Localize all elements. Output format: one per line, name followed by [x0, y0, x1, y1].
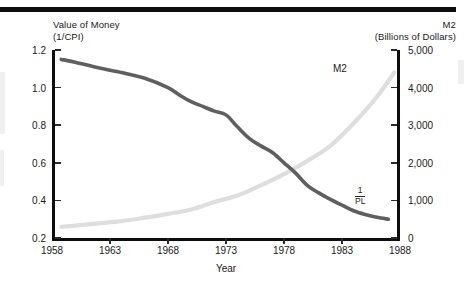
x-axis-tick-label: 1973 — [215, 245, 237, 256]
inverse-pl-series-label: 1 PL — [355, 186, 365, 207]
x-axis-tick — [225, 238, 227, 244]
left-axis-tick — [55, 237, 61, 239]
left-axis-tick-label: 0.6 — [32, 157, 46, 168]
left-axis-title-line1: Value of Money — [53, 19, 120, 30]
left-axis-tick-label: 1.0 — [32, 82, 46, 93]
x-axis-tick — [341, 238, 343, 244]
right-axis-tick — [391, 162, 397, 164]
x-axis-tick-label: 1983 — [331, 245, 353, 256]
left-axis-tick-label: 0.4 — [32, 195, 46, 206]
inverse-pl-denominator: PL — [355, 197, 365, 207]
left-axis-tick — [55, 124, 61, 126]
right-axis-tick — [391, 49, 397, 51]
m2-series-label: M2 — [333, 63, 347, 74]
right-axis-tick — [391, 124, 397, 126]
x-axis-tick-label: 1988 — [389, 245, 411, 256]
x-axis-tick-label: 1963 — [99, 245, 121, 256]
left-axis-tick-label: 0.2 — [32, 233, 46, 244]
x-axis-title: Year — [216, 263, 236, 274]
right-axis-tick — [391, 237, 397, 239]
x-axis-tick-label: 1968 — [157, 245, 179, 256]
x-axis-tick-label: 1958 — [41, 245, 63, 256]
scan-edge-artifact — [0, 72, 5, 134]
x-axis-tick — [109, 238, 111, 244]
right-axis-tick — [391, 200, 397, 202]
scan-edge-artifact — [0, 150, 4, 186]
x-axis-tick-label: 1978 — [273, 245, 295, 256]
right-axis-tick-label: 3,000 — [408, 120, 433, 131]
right-axis-tick — [391, 87, 397, 89]
right-axis-tick-label: 4,000 — [408, 82, 433, 93]
right-axis-line — [397, 50, 400, 241]
left-axis-tick — [55, 200, 61, 202]
right-axis-tick-label: 1,000 — [408, 195, 433, 206]
x-axis-tick — [167, 238, 169, 244]
top-rule-divider — [0, 7, 456, 12]
left-axis-title-line2: (1/CPI) — [53, 31, 84, 42]
left-axis-title: Value of Money(1/CPI) — [53, 19, 120, 42]
right-axis-title: M2(Billions of Dollars) — [375, 19, 456, 42]
left-axis-tick-label: 1.2 — [32, 45, 46, 56]
right-axis-title-line2: (Billions of Dollars) — [375, 31, 456, 42]
scan-edge-artifact — [458, 60, 464, 84]
left-axis-tick-label: 0.8 — [32, 120, 46, 131]
left-axis-tick — [55, 162, 61, 164]
x-axis-tick — [283, 238, 285, 244]
right-axis-tick-label: 2,000 — [408, 157, 433, 168]
right-axis-title-line1: M2 — [443, 19, 456, 30]
right-axis-tick-label: 0 — [408, 233, 414, 244]
left-axis-tick — [55, 49, 61, 51]
left-axis-tick — [55, 87, 61, 89]
left-axis-line — [52, 50, 55, 241]
plot-area — [52, 50, 400, 238]
inverse-pl-numerator: 1 — [355, 186, 365, 197]
right-axis-tick-label: 5,000 — [408, 45, 433, 56]
chart-figure: Value of Money(1/CPI) M2(Billions of Dol… — [0, 0, 464, 286]
